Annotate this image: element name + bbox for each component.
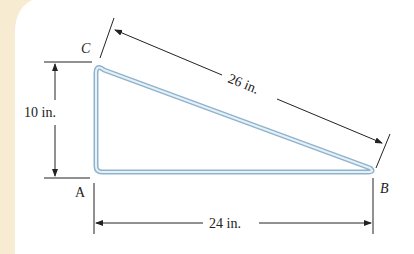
- point-label-a: A: [75, 185, 86, 200]
- base-label: 24 in.: [209, 216, 241, 231]
- point-label-c: C: [81, 41, 91, 56]
- hypotenuse-label: 26 in.: [226, 71, 261, 97]
- base-dimension: 24 in.: [94, 178, 373, 234]
- background-band: [0, 0, 32, 254]
- height-label: 10 in.: [24, 105, 56, 120]
- height-dimension: 10 in.: [24, 62, 92, 178]
- hypotenuse-dimension: 26 in.: [100, 18, 390, 168]
- triangle-rod-diagram: 10 in. 26 in. 24 in. C A B: [0, 0, 414, 254]
- point-label-b: B: [380, 181, 389, 196]
